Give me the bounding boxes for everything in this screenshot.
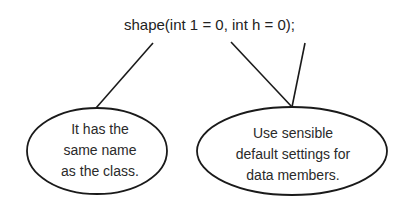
- pointer-line-first-param: [231, 42, 292, 107]
- callout-line: default settings for: [208, 144, 378, 165]
- callout-line: data members.: [208, 165, 378, 186]
- constructor-signature: shape(int 1 = 0, int h = 0);: [124, 16, 364, 33]
- callout-line: same name: [40, 140, 160, 161]
- callout-text-same-name: It has the same name as the class.: [40, 119, 160, 182]
- callout-line: as the class.: [40, 161, 160, 182]
- diagram-canvas: shape(int 1 = 0, int h = 0); It has the …: [0, 0, 407, 214]
- callout-line: It has the: [40, 119, 160, 140]
- pointer-line-name: [96, 43, 153, 108]
- callout-text-default-settings: Use sensible default settings for data m…: [208, 123, 378, 186]
- pointer-line-second-param: [292, 43, 305, 107]
- callout-line: Use sensible: [208, 123, 378, 144]
